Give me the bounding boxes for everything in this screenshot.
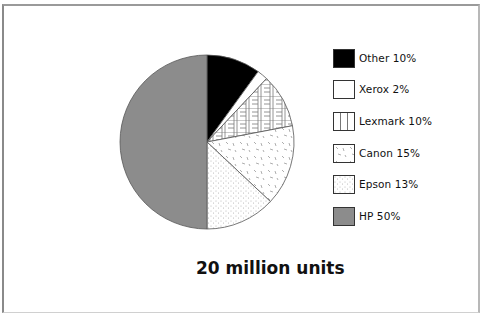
legend-swatch-epson xyxy=(333,175,355,194)
legend-swatch-canon xyxy=(333,144,355,163)
chart-title: 20 million units xyxy=(0,258,482,278)
pie-slices xyxy=(120,55,294,229)
legend-label-hp: HP 50% xyxy=(359,210,401,222)
legend-label-lexmark: Lexmark 10% xyxy=(359,115,432,127)
legend-label-other: Other 10% xyxy=(359,52,416,64)
legend-swatch-hp xyxy=(333,207,355,226)
legend-label-epson: Epson 13% xyxy=(359,178,418,190)
legend-item-epson: Epson 13% xyxy=(333,173,418,195)
legend-label-canon: Canon 15% xyxy=(359,147,420,159)
legend-item-xerox: Xerox 2% xyxy=(333,78,409,100)
legend-swatch-xerox xyxy=(333,80,355,99)
legend-item-lexmark: Lexmark 10% xyxy=(333,110,432,132)
legend-item-other: Other 10% xyxy=(333,47,416,69)
legend-swatch-lexmark xyxy=(333,112,355,131)
pie-slice-hp xyxy=(120,55,207,229)
legend-item-hp: HP 50% xyxy=(333,205,401,227)
legend-item-canon: Canon 15% xyxy=(333,142,420,164)
legend-label-xerox: Xerox 2% xyxy=(359,83,409,95)
legend-swatch-other xyxy=(333,49,355,68)
